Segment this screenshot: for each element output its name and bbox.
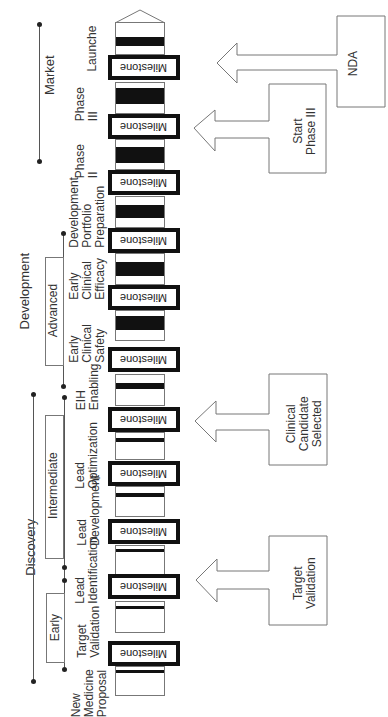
stage-label-dev-portfolio-prep: Development Portfolio Preparation bbox=[68, 168, 108, 248]
development-bracket-start bbox=[61, 231, 66, 236]
phase-label-development: Development bbox=[18, 246, 32, 336]
intermediate-end bbox=[62, 565, 67, 570]
subphase-label-intermediate: Intermediate bbox=[47, 451, 60, 521]
segment-lead-identification bbox=[115, 545, 165, 575]
milestone-lead-identification[interactable]: Milestone bbox=[108, 574, 180, 599]
segment-lead-development bbox=[115, 486, 165, 517]
stage-label-launch: Launche bbox=[86, 12, 99, 72]
segment-bar bbox=[116, 606, 164, 609]
milestone-dev-portfolio[interactable]: Milestone bbox=[108, 228, 180, 253]
segment-bar bbox=[116, 147, 164, 163]
stage-label-early-clinical-efficacy: Early Clinical Efficacy bbox=[68, 250, 108, 300]
milestone-early-clinical-safety[interactable]: Milestone bbox=[108, 347, 180, 372]
milestone-eih-enabling[interactable]: Milestone bbox=[108, 407, 180, 432]
segment-bar bbox=[116, 670, 164, 673]
segment-dev-portfolio bbox=[115, 196, 165, 228]
segment-new-medicine-proposal bbox=[115, 666, 165, 696]
callout-target-validation: Target Validation bbox=[292, 548, 318, 618]
market-bracket-end bbox=[37, 159, 42, 164]
segment-phase-2 bbox=[115, 139, 165, 170]
segment-bar bbox=[116, 549, 164, 552]
phase-label-discovery: Discovery bbox=[24, 512, 38, 582]
intermediate-start bbox=[62, 395, 67, 400]
stage-label-new-medicine-proposal: New Medicine Proposal bbox=[70, 662, 110, 717]
discovery-bracket-line bbox=[33, 394, 34, 681]
callout-clinical-candidate-selected: Clinical Candidate Selected bbox=[285, 379, 325, 469]
segment-target-validation bbox=[115, 601, 165, 633]
phase-label-market: Market bbox=[43, 45, 57, 105]
segment-phase-3 bbox=[115, 82, 165, 114]
callout-nda: NDA bbox=[347, 39, 360, 89]
milestone-lead-optimization[interactable]: Milestone bbox=[108, 461, 180, 486]
callout-start-phase-3: Start Phase III bbox=[292, 96, 318, 166]
segment-bar bbox=[116, 438, 164, 442]
market-bracket-start bbox=[37, 22, 42, 27]
stage-label-phase-3: Phase III bbox=[74, 81, 100, 121]
segment-bar bbox=[116, 316, 164, 330]
segment-early-clinical-safety bbox=[115, 310, 165, 341]
segment-bar bbox=[116, 262, 164, 276]
early-start bbox=[62, 578, 67, 583]
market-bracket-line bbox=[39, 24, 40, 161]
milestone-lead-development[interactable]: Milestone bbox=[108, 519, 180, 544]
subphase-label-early: Early bbox=[49, 606, 62, 650]
segment-early-clinical-efficacy bbox=[115, 253, 165, 285]
discovery-bracket-end bbox=[31, 679, 36, 684]
milestone-launch[interactable]: Milestone bbox=[108, 55, 180, 80]
early-end bbox=[62, 667, 67, 672]
segment-lead-optimization bbox=[115, 432, 165, 460]
segment-eih-enabling bbox=[115, 374, 165, 406]
subphase-label-advanced: Advanced bbox=[47, 281, 60, 341]
milestone-target-validation[interactable]: Milestone bbox=[108, 641, 180, 666]
development-bracket-end bbox=[61, 384, 66, 389]
segment-bar bbox=[116, 37, 164, 46]
segment-bar bbox=[116, 88, 164, 104]
milestone-phase-3[interactable]: Milestone bbox=[108, 114, 180, 139]
milestone-early-clinical-efficacy[interactable]: Milestone bbox=[108, 285, 180, 310]
segment-bar bbox=[116, 383, 164, 389]
stage-label-early-clinical-safety: Early Clinical Safety bbox=[68, 313, 108, 363]
stage-label-lead-identification: Lead Identification bbox=[74, 529, 100, 604]
discovery-bracket-start bbox=[31, 392, 36, 397]
segment-bar bbox=[116, 205, 164, 218]
milestone-phase-2[interactable]: Milestone bbox=[108, 170, 180, 195]
segment-launch bbox=[115, 22, 165, 55]
stage-label-eih-enabling: EIH Enabling bbox=[75, 360, 101, 410]
segment-bar bbox=[116, 493, 164, 497]
stage-label-target-validation: Target Validation bbox=[76, 603, 102, 658]
